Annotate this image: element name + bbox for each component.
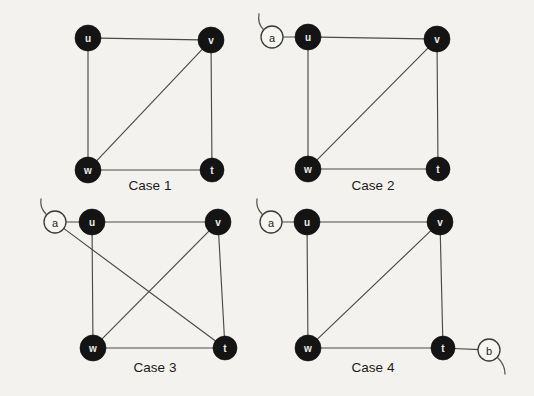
node-label-w: w (303, 164, 312, 175)
node-u: u (79, 209, 105, 235)
figure-background (0, 0, 534, 396)
caption-case-2: Case 2 (352, 178, 395, 193)
node-b: b (478, 339, 500, 361)
node-label-w: w (303, 343, 312, 354)
node-label-v: v (208, 35, 214, 46)
edge-u-w (92, 233, 93, 336)
figure-container: uvwtCase 1auvwtCase 2auvwtCase 3auvwtbCa… (0, 0, 534, 396)
caption-case-4: Case 4 (352, 360, 395, 375)
node-label-w: w (83, 165, 92, 176)
node-label-a: a (52, 217, 59, 229)
node-t: t (431, 336, 455, 360)
node-w: w (295, 156, 321, 182)
node-u: u (295, 24, 321, 50)
node-v: v (424, 26, 450, 52)
node-v: v (427, 209, 453, 235)
edge-u-w (307, 233, 308, 336)
node-w: w (80, 335, 106, 361)
node-label-a: a (269, 32, 276, 44)
node-t: t (200, 158, 224, 182)
node-label-u: u (89, 217, 95, 228)
node-label-u: u (305, 32, 311, 43)
node-v: v (198, 27, 224, 53)
node-u: u (75, 25, 101, 51)
node-label-u: u (85, 33, 91, 44)
node-label-a: a (268, 217, 275, 229)
node-label-w: w (88, 343, 97, 354)
node-t: t (213, 336, 237, 360)
graph-figure-canvas: uvwtCase 1auvwtCase 2auvwtCase 3auvwtbCa… (0, 0, 534, 396)
node-v: v (205, 209, 231, 235)
node-w: w (75, 157, 101, 183)
node-a: a (260, 211, 282, 233)
node-a: a (261, 26, 283, 48)
node-label-v: v (215, 217, 221, 228)
node-label-v: v (434, 34, 440, 45)
caption-case-1: Case 1 (129, 178, 172, 193)
node-t: t (426, 157, 450, 181)
node-u: u (294, 209, 320, 235)
node-label-v: v (437, 217, 443, 228)
node-a: a (44, 211, 66, 233)
node-label-b: b (486, 345, 492, 357)
node-label-u: u (304, 217, 310, 228)
caption-case-3: Case 3 (134, 360, 177, 375)
node-w: w (295, 335, 321, 361)
